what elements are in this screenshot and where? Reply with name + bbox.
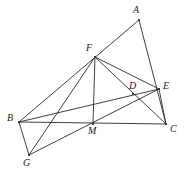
segment-F-M — [93, 57, 95, 124]
vertex-point-F — [94, 56, 96, 58]
segment-A-F-B — [19, 20, 139, 122]
vertex-label-G: G — [23, 158, 30, 168]
vertex-label-D: D — [129, 81, 136, 91]
vertex-point-B — [18, 121, 20, 123]
vertex-point-E — [158, 88, 160, 90]
vertex-label-A: A — [133, 5, 139, 15]
vertex-point-C — [165, 123, 167, 125]
segment-B-G — [19, 122, 29, 155]
vertex-label-C: C — [170, 124, 177, 134]
vertex-point-D — [132, 93, 134, 95]
geometry-figure: A B C D E F G M — [0, 0, 192, 176]
vertex-label-M: M — [88, 126, 96, 136]
vertex-point-A — [138, 19, 140, 21]
vertex-label-E: E — [163, 81, 169, 91]
segment-A-E-C — [139, 20, 166, 124]
segment-B-D-E — [19, 89, 159, 122]
vertex-label-B: B — [7, 113, 13, 123]
vertex-point-G — [28, 154, 30, 156]
vertex-label-F: F — [86, 43, 92, 53]
